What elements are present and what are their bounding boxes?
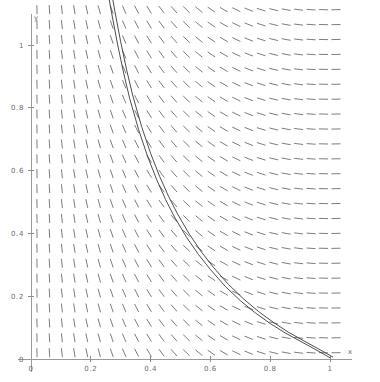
slope-segment: [232, 351, 240, 355]
slope-segment: [147, 274, 152, 282]
slope-segment: [208, 67, 215, 72]
slope-segment: [294, 99, 303, 100]
x-axis-tick-label: 0.2: [84, 365, 97, 373]
slope-segment: [61, 110, 62, 119]
slope-segment: [86, 348, 88, 357]
slope-segment: [245, 83, 253, 86]
slope-segment: [208, 246, 215, 251]
slope-segment: [245, 277, 253, 280]
slope-segment: [49, 169, 50, 178]
slope-segment: [183, 215, 189, 221]
slope-segment: [220, 306, 228, 311]
slope-segment: [245, 112, 253, 115]
slope-segment: [135, 95, 139, 103]
slope-segment: [294, 233, 303, 234]
slope-segment: [49, 95, 50, 104]
slope-segment: [307, 248, 316, 249]
slope-segment: [257, 247, 266, 250]
slope-segment: [232, 246, 240, 250]
slope-segment: [159, 319, 164, 326]
slope-segment: [282, 69, 291, 71]
slope-segment: [86, 304, 88, 313]
slope-segment: [232, 217, 240, 221]
slope-segment: [307, 114, 316, 115]
slope-segment: [257, 322, 266, 325]
slope-segment: [147, 259, 152, 267]
slope-segment: [294, 322, 303, 323]
slope-segment: [147, 95, 152, 103]
slope-segment: [294, 39, 303, 40]
slope-segment: [220, 82, 228, 87]
slope-segment: [159, 245, 164, 252]
slope-segment: [122, 170, 126, 178]
solution-curves-group: [107, 0, 333, 358]
slope-segment: [307, 263, 316, 264]
slope-segment: [61, 50, 62, 59]
slope-segment: [294, 54, 303, 55]
slope-segment: [159, 96, 164, 103]
slope-segment: [307, 39, 316, 40]
slope-segment: [159, 125, 164, 132]
slope-segment: [195, 96, 202, 102]
origin-label-y: 0: [19, 356, 24, 364]
slope-segment: [171, 96, 177, 103]
slope-segment: [159, 66, 164, 73]
slope-segment: [171, 21, 177, 28]
slope-segment: [195, 81, 202, 87]
slope-segment: [98, 80, 100, 89]
slope-segment: [98, 65, 100, 74]
slope-segment: [61, 95, 62, 104]
slope-segment: [147, 125, 152, 133]
slope-segment: [74, 169, 75, 178]
slope-segment: [257, 8, 266, 11]
slope-segment: [159, 334, 164, 341]
slope-segment: [110, 125, 113, 133]
slope-segment: [269, 128, 278, 130]
slope-segment: [49, 229, 50, 238]
slope-segment: [183, 290, 189, 296]
slope-segment: [74, 304, 75, 313]
slope-segment: [257, 98, 266, 101]
slope-segment: [159, 36, 164, 43]
slope-segment: [135, 50, 139, 58]
slope-segment: [257, 292, 266, 295]
slope-segment: [269, 188, 278, 190]
slope-segment: [195, 141, 202, 147]
slope-segment: [86, 274, 88, 283]
y-axis-tick-label: 0.6: [11, 167, 24, 175]
slope-segment: [74, 289, 75, 298]
slope-field-figure: 0.20.40.60.810.20.40.60.8100xy: [0, 0, 380, 382]
slope-segment: [257, 172, 266, 175]
slope-segment: [122, 185, 126, 193]
slope-segment: [86, 50, 88, 59]
slope-segment: [232, 112, 240, 116]
slope-segment: [269, 203, 278, 205]
slope-segment: [49, 125, 50, 134]
slope-segment: [147, 349, 152, 357]
slope-segment: [135, 140, 139, 148]
slope-segment: [183, 66, 189, 72]
slope-segment: [61, 35, 62, 44]
slope-segment: [61, 229, 62, 238]
slope-segment: [49, 65, 50, 74]
slope-segment: [74, 229, 75, 238]
slope-segment: [171, 66, 177, 73]
slope-segment: [282, 262, 291, 264]
slope-segment: [122, 155, 126, 163]
slope-segment: [98, 125, 100, 134]
slope-segment: [61, 199, 62, 208]
slope-segment: [294, 203, 303, 204]
slope-segment: [135, 21, 139, 29]
slope-segment: [74, 139, 75, 148]
slope-segment: [61, 184, 62, 193]
slope-segment: [98, 169, 100, 178]
slope-segment: [135, 229, 139, 237]
slope-segment: [147, 230, 152, 238]
slope-segment: [220, 97, 228, 102]
slope-segment: [61, 154, 62, 163]
slope-segment: [74, 125, 75, 134]
slope-segment: [135, 36, 139, 44]
slope-segment: [195, 290, 202, 296]
slope-segment: [110, 319, 113, 327]
slope-segment: [122, 229, 126, 237]
